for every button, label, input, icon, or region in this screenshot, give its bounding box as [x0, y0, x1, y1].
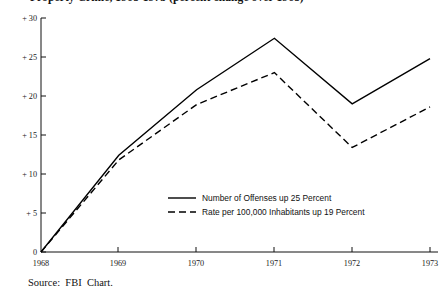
series-line-offenses	[41, 38, 430, 252]
y-tick-label-30: + 30	[22, 14, 37, 23]
chart-legend: Number of Offenses up 25 Percent Rate pe…	[168, 193, 365, 217]
y-tick-label-0: 0	[33, 248, 37, 257]
x-tick-label-1970: 1970	[188, 259, 204, 268]
y-tick-label-25: + 25	[22, 53, 37, 62]
x-tick-label-1972: 1972	[344, 259, 360, 268]
y-axis-ticks	[41, 18, 46, 252]
chart-figure: Property Crime, 1968-1973 (percent chang…	[0, 0, 447, 298]
x-tick-label-1969: 1969	[110, 259, 126, 268]
y-tick-label-20: + 20	[22, 92, 37, 101]
y-tick-label-5: + 5	[26, 209, 37, 218]
x-tick-label-1971: 1971	[266, 259, 282, 268]
y-tick-label-15: + 15	[22, 131, 37, 140]
x-tick-label-1968: 1968	[33, 259, 49, 268]
series-line-rate	[41, 73, 430, 252]
legend-label-offenses: Number of Offenses up 25 Percent	[202, 193, 332, 203]
legend-label-rate: Rate per 100,000 Inhabitants up 19 Perce…	[202, 207, 365, 217]
x-axis-ticks	[118, 247, 430, 252]
source-note: Source: FBI Chart.	[28, 277, 113, 288]
x-tick-label-1973: 1973	[422, 259, 438, 268]
y-tick-label-10: + 10	[22, 170, 37, 179]
chart-plot-area: 0 + 5 + 10 + 15 + 20 + 25 + 30 1968 1969…	[0, 0, 447, 272]
